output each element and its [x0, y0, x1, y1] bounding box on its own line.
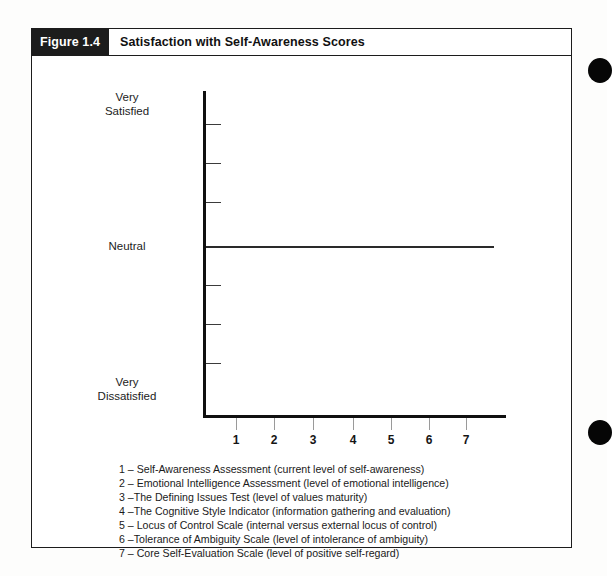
y-axis-tick-3 [206, 202, 221, 203]
x-axis-tick-2 [274, 418, 275, 430]
x-axis-line [203, 415, 506, 418]
legend-item-6: 6 –Tolerance of Ambiguity Scale (level o… [119, 532, 451, 546]
x-axis-label-3: 3 [302, 433, 324, 447]
y-axis-label-very-satisfied-line1: Very [52, 91, 202, 105]
legend-item-3: 3 –The Defining Issues Test (level of va… [119, 490, 451, 504]
y-axis-line [203, 91, 206, 418]
legend-item-5: 5 – Locus of Control Scale (internal ver… [119, 518, 451, 532]
x-axis-tick-5 [391, 418, 392, 430]
chart-plot-area: Very Satisfied Neutral Very Dissatisfied… [32, 56, 571, 547]
y-axis-label-neutral: Neutral [52, 240, 202, 254]
y-axis-tick-7 [206, 363, 221, 364]
chart-legend: 1 – Self-Awareness Assessment (current l… [119, 462, 451, 560]
y-axis-label-very-dissatisfied-line2: Dissatisfied [52, 390, 202, 404]
neutral-reference-line [206, 246, 494, 248]
x-axis-label-1: 1 [225, 433, 247, 447]
y-axis-label-very-dissatisfied: Very Dissatisfied [52, 376, 202, 403]
x-axis-tick-7 [466, 418, 467, 430]
x-axis-tick-1 [236, 418, 237, 430]
x-axis-label-4: 4 [342, 433, 364, 447]
x-axis-label-2: 2 [263, 433, 285, 447]
scan-artifact-dot-bottom [588, 420, 612, 445]
x-axis-label-6: 6 [418, 433, 440, 447]
x-axis-label-5: 5 [380, 433, 402, 447]
y-axis-label-neutral-text: Neutral [52, 240, 202, 254]
x-axis-tick-3 [313, 418, 314, 430]
x-axis-label-7: 7 [455, 433, 477, 447]
x-axis-tick-4 [353, 418, 354, 430]
y-axis-label-very-dissatisfied-line1: Very [52, 376, 202, 390]
y-axis-label-very-satisfied: Very Satisfied [52, 91, 202, 118]
scan-artifact-dot-top [588, 58, 612, 83]
legend-item-2: 2 – Emotional Intelligence Assessment (l… [119, 476, 451, 490]
legend-item-1: 1 – Self-Awareness Assessment (current l… [119, 462, 451, 476]
y-axis-tick-5 [206, 285, 221, 286]
y-axis-tick-6 [206, 324, 221, 325]
legend-item-7: 7 – Core Self-Evaluation Scale (level of… [119, 546, 451, 560]
figure-box: Figure 1.4 Satisfaction with Self-Awaren… [31, 28, 572, 548]
figure-title: Satisfaction with Self-Awareness Scores [109, 29, 571, 55]
figure-header: Figure 1.4 Satisfaction with Self-Awaren… [32, 29, 571, 56]
figure-number-badge: Figure 1.4 [32, 29, 109, 55]
y-axis-label-very-satisfied-line2: Satisfied [52, 105, 202, 119]
x-axis-tick-6 [429, 418, 430, 430]
y-axis-tick-2 [206, 163, 221, 164]
legend-item-4: 4 –The Cognitive Style Indicator (inform… [119, 504, 451, 518]
y-axis-tick-1 [206, 124, 221, 125]
